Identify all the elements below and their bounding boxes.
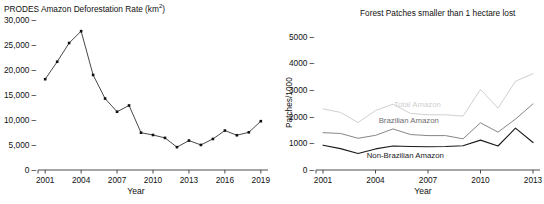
- chart-panel-deforestation-rate: PRODES Amazon Deforestation Rate (km2) 0…: [0, 0, 272, 204]
- figure-root: PRODES Amazon Deforestation Rate (km2) 0…: [0, 0, 544, 204]
- series-label-non-brazilian-amazon: Non-Brazilian Amazon: [367, 151, 444, 160]
- series-label-brazilian-amazon: Brazilian Amazon: [379, 115, 439, 124]
- series-label-total-amazon: Total Amazon: [394, 99, 441, 108]
- x-axis-label-right: Year: [302, 186, 544, 196]
- x-axis-label-left: Year: [0, 186, 272, 196]
- plot-area-left: [0, 0, 272, 204]
